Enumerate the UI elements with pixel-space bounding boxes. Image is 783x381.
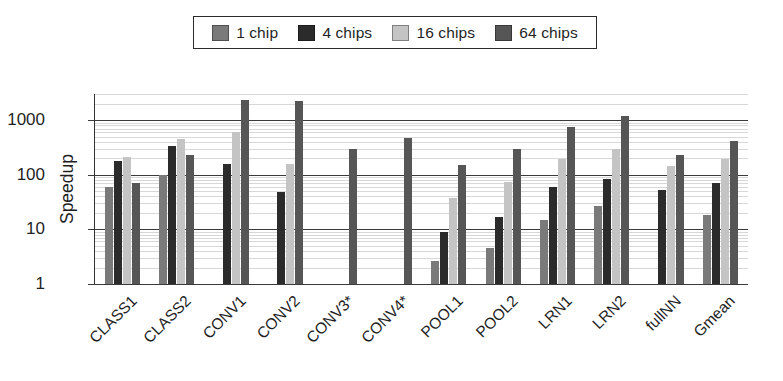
bar xyxy=(513,149,521,284)
bar xyxy=(132,183,140,284)
bar xyxy=(721,159,729,284)
bar xyxy=(123,157,131,284)
bar xyxy=(177,139,185,284)
x-axis-tick-label: CLASS1 xyxy=(86,292,141,347)
legend-swatch-icon xyxy=(392,25,409,41)
x-axis-tick-label: fullNN xyxy=(642,292,685,335)
bar xyxy=(440,232,448,284)
bar xyxy=(458,165,466,284)
bar xyxy=(349,149,357,284)
bar xyxy=(667,166,675,284)
bar xyxy=(612,149,620,284)
gridline-major xyxy=(95,284,748,285)
bar xyxy=(558,159,566,284)
bar-group xyxy=(149,94,203,284)
bar xyxy=(658,190,666,284)
bar-group xyxy=(530,94,584,284)
bar xyxy=(159,175,167,284)
x-axis-tick-label: POOL2 xyxy=(472,292,521,341)
bar xyxy=(449,198,457,284)
y-axis-tick-mark xyxy=(88,175,95,176)
y-axis-tick-label: 1 xyxy=(36,274,45,294)
bar xyxy=(295,101,303,284)
plot-area: Speedup 1101001000 xyxy=(94,94,748,285)
bar xyxy=(703,215,711,284)
x-axis-tick-label: Gmean xyxy=(690,292,739,341)
x-axis-tick-label: CONV3* xyxy=(303,292,358,347)
bar xyxy=(495,217,503,284)
y-axis-tick-label: 100 xyxy=(17,165,45,185)
bar-group xyxy=(422,94,476,284)
bar xyxy=(621,116,629,284)
bar xyxy=(431,261,439,284)
bar xyxy=(540,220,548,284)
speedup-bar-chart: 1 chip4 chips16 chips64 chips Speedup 11… xyxy=(0,0,783,381)
legend-label: 1 chip xyxy=(236,24,278,42)
bar xyxy=(105,187,113,284)
bar xyxy=(712,183,720,284)
x-axis-tick-label: CONV2 xyxy=(253,292,303,342)
legend-swatch-icon xyxy=(298,25,315,41)
bar xyxy=(186,155,194,284)
y-axis-tick-mark xyxy=(88,229,95,230)
legend-entry: 64 chips xyxy=(495,24,578,42)
bar-group xyxy=(639,94,693,284)
x-axis-tick-label: CONV4* xyxy=(358,292,413,347)
x-axis-tick-labels: CLASS1CLASS2CONV1CONV2CONV3*CONV4*POOL1P… xyxy=(94,286,747,381)
legend-entry: 1 chip xyxy=(212,24,278,42)
bar-group xyxy=(95,94,149,284)
bar xyxy=(286,164,294,284)
legend-label: 4 chips xyxy=(322,24,372,42)
x-axis-tick-label: LRN1 xyxy=(535,292,576,333)
bar xyxy=(168,146,176,284)
bar xyxy=(549,187,557,284)
legend-label: 64 chips xyxy=(519,24,578,42)
y-axis-tick-mark xyxy=(88,284,95,285)
bar xyxy=(241,100,249,284)
bar-group xyxy=(694,94,748,284)
bar xyxy=(114,161,122,284)
legend-entry: 16 chips xyxy=(392,24,475,42)
bar xyxy=(594,206,602,284)
legend-label: 16 chips xyxy=(416,24,475,42)
x-axis-tick-label: CLASS2 xyxy=(140,292,195,347)
bar xyxy=(223,164,231,284)
bar xyxy=(567,127,575,284)
y-axis-tick-label: 10 xyxy=(26,219,45,239)
x-axis-tick-label: LRN2 xyxy=(589,292,630,333)
bar-group xyxy=(204,94,258,284)
bar xyxy=(486,248,494,284)
bar xyxy=(603,179,611,284)
bar-group xyxy=(585,94,639,284)
bar xyxy=(504,182,512,284)
legend-entry: 4 chips xyxy=(298,24,372,42)
bar xyxy=(404,138,412,284)
bar xyxy=(277,192,285,284)
bar-group xyxy=(367,94,421,284)
bar xyxy=(730,141,738,284)
x-axis-tick-label: CONV1 xyxy=(199,292,249,342)
legend-swatch-icon xyxy=(495,25,512,41)
bar-group xyxy=(258,94,312,284)
bar xyxy=(676,155,684,284)
y-axis-title: Speedup xyxy=(57,154,78,224)
x-axis-tick-label: POOL1 xyxy=(418,292,467,341)
bar xyxy=(232,132,240,284)
chart-legend: 1 chip4 chips16 chips64 chips xyxy=(193,16,597,49)
bar-series-container xyxy=(95,94,748,284)
legend-swatch-icon xyxy=(212,25,229,41)
y-axis-tick-mark xyxy=(88,120,95,121)
bar-group xyxy=(476,94,530,284)
y-axis-tick-label: 1000 xyxy=(7,110,45,130)
bar-group xyxy=(313,94,367,284)
